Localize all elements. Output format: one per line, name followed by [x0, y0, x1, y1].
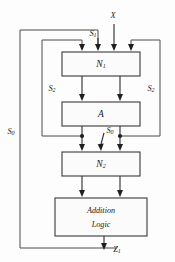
label-signal-s0-mid: S0: [106, 126, 113, 136]
arrowhead-z1: [101, 243, 107, 250]
junction-dot-left: [80, 134, 84, 138]
block-addition-logic-rect: [55, 198, 147, 236]
arrowhead-n1-a-right: [117, 94, 123, 101]
label-signal-z1: Z1: [113, 245, 121, 255]
input-wire-s0-mid: [98, 133, 104, 151]
arrowhead-a-n2-left: [79, 144, 85, 151]
junction-dot-right: [118, 134, 122, 138]
block-addition-logic: Addition Logic: [55, 198, 147, 236]
block-addition-logic-label-line1: Addition: [86, 206, 115, 215]
block-n1: N1: [62, 52, 140, 76]
block-diagram-figure: N1 A N2 Addition Logic X S1 S2: [0, 0, 175, 262]
label-signal-s2-left: S2: [48, 84, 55, 94]
wire-n1-to-a: [79, 76, 123, 101]
arrowhead-s2-left-into-n1: [79, 44, 85, 51]
arrowhead-n1-a-left: [79, 94, 85, 101]
block-a-label: A: [97, 109, 104, 119]
label-signal-x: X: [109, 11, 116, 20]
arrowhead-n2-add-right: [117, 190, 123, 197]
arrowhead-s0-into-n1: [95, 44, 101, 51]
wire-n2-to-addition: [79, 176, 123, 197]
input-wire-x: [111, 24, 117, 51]
block-a: A: [62, 102, 140, 126]
label-signal-s0-left: S0: [7, 127, 14, 137]
arrowhead-s0-into-n2: [98, 144, 104, 151]
label-signal-s2-right: S2: [147, 84, 154, 94]
arrowhead-n2-add-left: [79, 190, 85, 197]
block-n2: N2: [62, 152, 140, 176]
block-diagram-canvas: N1 A N2 Addition Logic X S1 S2: [0, 0, 175, 262]
arrowhead-s2-right-into-n1: [128, 44, 134, 51]
arrowhead-a-n2-right: [117, 144, 123, 151]
block-addition-logic-label-line2: Logic: [91, 220, 111, 229]
arrowhead-x-into-n1: [111, 44, 117, 51]
